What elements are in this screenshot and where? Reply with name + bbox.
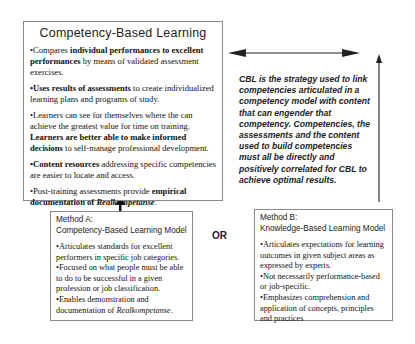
cbl-strategy-statement: CBL is the strategy used to link compete… <box>239 74 375 186</box>
method-b-label: Method B: <box>260 213 387 224</box>
method-a-item-suffix: . <box>171 306 173 315</box>
main-box-bullet: •Content resources addressing specific c… <box>30 159 216 181</box>
main-box-title: Competency-Based Learning <box>30 26 216 40</box>
method-a-item: •Focused on what people must be able to … <box>56 263 187 295</box>
method-a-heading: Method A: Competency-Based Learning Mode… <box>56 215 187 236</box>
realkompetanse-term: Realkompetanse <box>116 306 170 315</box>
or-label: OR <box>212 230 227 241</box>
competency-based-learning-box: Competency-Based Learning •Compares indi… <box>23 21 223 201</box>
method-b-item: •Articulates expectations for learning o… <box>260 240 387 272</box>
main-box-bullet: •Post-training assessments provide empir… <box>30 186 216 208</box>
method-a-item: •Enables demonstration and documentation… <box>56 295 187 316</box>
main-box-bullet: •Compares individual performances to exc… <box>30 45 216 78</box>
main-box-bullet: •Learners can see for themselves where t… <box>30 110 216 154</box>
method-b-box: Method B: Knowledge-Based Learning Model… <box>254 209 393 321</box>
double-headed-arrow-icon <box>228 49 360 57</box>
main-box-bullet: •Uses results of assessments to create i… <box>30 83 216 105</box>
method-b-heading: Method B: Knowledge-Based Learning Model <box>260 213 387 234</box>
up-arrow-right-icon <box>376 54 382 202</box>
method-b-title: Knowledge-Based Learning Model <box>260 224 387 235</box>
method-a-item: •Articulates standards for excellent per… <box>56 242 187 263</box>
method-a-box: Method A: Competency-Based Learning Mode… <box>50 211 193 321</box>
main-box-bullet-list: •Compares individual performances to exc… <box>30 45 216 208</box>
method-a-label: Method A: <box>56 215 187 226</box>
method-b-item: •Not necessarily performance-based or jo… <box>260 272 387 293</box>
method-b-item: •Emphasizes comprehension and applicatio… <box>260 293 387 325</box>
method-a-title: Competency-Based Learning Model <box>56 226 187 237</box>
